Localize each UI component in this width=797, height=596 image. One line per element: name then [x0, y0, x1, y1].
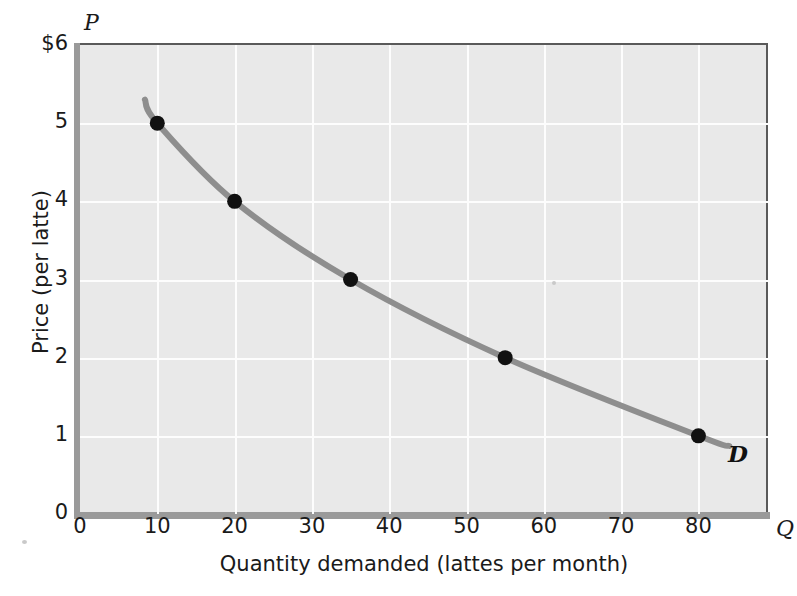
x-tick-label: 50 — [437, 516, 497, 537]
demand-curve-label: D — [728, 440, 748, 467]
x-tick-label: 20 — [205, 516, 265, 537]
demand-curve-path — [145, 100, 729, 446]
scan-speck — [552, 281, 556, 285]
data-point-marker — [343, 272, 358, 287]
y-tick-label: $6 — [2, 33, 68, 54]
x-axis-symbol: Q — [776, 516, 794, 541]
x-tick-label: 40 — [359, 516, 419, 537]
plot-area — [80, 43, 768, 512]
data-point-markers — [150, 116, 706, 444]
x-tick-label: 0 — [50, 516, 110, 537]
x-axis-title: Quantity demanded (lattes per month) — [80, 552, 768, 576]
x-tick-label: 10 — [127, 516, 187, 537]
y-axis-title: Price (per latte) — [29, 122, 53, 422]
demand-curve-svg — [80, 45, 768, 514]
scan-speck — [22, 540, 27, 544]
y-axis-symbol: P — [84, 10, 99, 35]
x-tick-label: 30 — [282, 516, 342, 537]
data-point-marker — [498, 350, 513, 365]
demand-curve-figure: P Q D 012345$6 01020304050607080 Price (… — [0, 0, 797, 596]
x-tick-label: 80 — [668, 516, 728, 537]
data-point-marker — [227, 194, 242, 209]
x-tick-label: 60 — [514, 516, 574, 537]
y-tick-label: 1 — [2, 424, 68, 445]
data-point-marker — [150, 116, 165, 131]
x-tick-label: 70 — [591, 516, 651, 537]
data-point-marker — [691, 428, 706, 443]
